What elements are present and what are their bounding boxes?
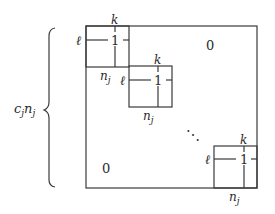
diagonal-block-3: 1 ℓ k nj [205, 133, 257, 206]
col-label: k [240, 133, 247, 147]
col-label: k [111, 13, 118, 27]
left-brace [44, 28, 55, 187]
row-label: ℓ [76, 33, 82, 48]
block-matrix-diagram: cjnj 0 0 ⋱ 1 ℓ k nj 1 ℓ k nj 1 ℓ [0, 0, 275, 214]
size-label: nj [229, 190, 240, 206]
diagonal-ellipsis: ⋱ [186, 127, 200, 143]
row-label: ℓ [205, 152, 211, 167]
col-label: k [154, 53, 161, 67]
size-label: nj [100, 69, 111, 85]
dimension-label: cjnj [14, 101, 35, 118]
block-entry: 1 [111, 33, 119, 48]
zero-upper-right: 0 [206, 38, 214, 53]
size-label: nj [143, 109, 154, 125]
block-entry: 1 [240, 152, 248, 167]
diagonal-block-2: 1 ℓ k nj [120, 53, 172, 125]
block-entry: 1 [154, 73, 162, 88]
row-label: ℓ [120, 73, 126, 88]
zero-lower-left: 0 [102, 161, 110, 176]
